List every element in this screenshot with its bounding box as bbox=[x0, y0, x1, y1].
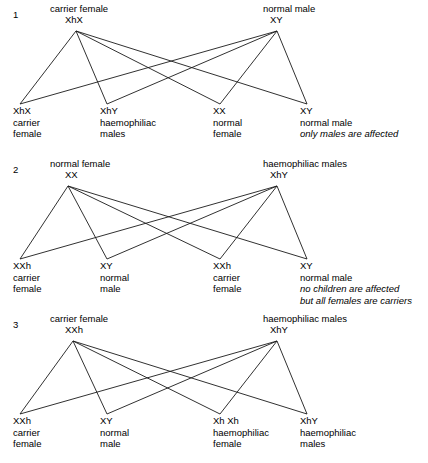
offspring-genotype: XXh bbox=[13, 260, 42, 272]
offspring-label-line1: normal male bbox=[300, 272, 412, 284]
offspring-note: only males are affected bbox=[300, 128, 398, 140]
parent-male-2: haemophiliac males XhY bbox=[263, 158, 347, 180]
parent-female-genotype-1: XhX bbox=[65, 14, 108, 25]
offspring-1-2: XhY haemophiliac males bbox=[100, 105, 156, 140]
cross-block-1: 1 carrier female XhX normal male XY XhX … bbox=[0, 0, 428, 153]
offspring-3-3: Xh Xh haemophiliac female bbox=[213, 415, 269, 450]
haemophilia-inheritance-diagram: 1 carrier female XhX normal male XY XhX … bbox=[0, 0, 428, 463]
offspring-label-line1: carrier bbox=[213, 272, 242, 284]
offspring-label-line2: males bbox=[300, 438, 356, 450]
offspring-genotype: Xh Xh bbox=[213, 415, 269, 427]
offspring-genotype: XhY bbox=[100, 105, 156, 117]
offspring-2-4: XY normal male no children are affected … bbox=[300, 260, 412, 306]
offspring-label-line1: haemophiliac bbox=[300, 427, 356, 439]
offspring-label-line1: haemophiliac bbox=[100, 117, 156, 129]
cross-block-2: 2 normal female XX haemophiliac males Xh… bbox=[0, 155, 428, 308]
offspring-3-1: XXh carrier female bbox=[13, 415, 42, 450]
parent-male-genotype-2: XhY bbox=[270, 169, 347, 180]
offspring-1-4: XY normal male only males are affected bbox=[300, 105, 398, 140]
parent-female-genotype-2: XX bbox=[65, 169, 110, 180]
offspring-label-line2: female bbox=[213, 128, 242, 140]
parent-male-genotype-1: XY bbox=[270, 14, 315, 25]
offspring-label-line1: carrier bbox=[13, 272, 42, 284]
offspring-label-line1: normal bbox=[100, 272, 129, 284]
parent-male-1: normal male XY bbox=[263, 3, 315, 25]
parent-female-description-1: carrier female bbox=[50, 3, 108, 14]
parent-female-genotype-3: XXh bbox=[65, 324, 108, 335]
parent-male-description-3: haemophiliac males bbox=[263, 313, 347, 324]
offspring-genotype: XXh bbox=[13, 415, 42, 427]
offspring-note: no children are affected bbox=[300, 283, 412, 295]
offspring-label-line1: carrier bbox=[13, 427, 42, 439]
offspring-genotype: XXh bbox=[213, 260, 242, 272]
offspring-genotype: XhX bbox=[13, 105, 42, 117]
offspring-label-line2: female bbox=[13, 128, 42, 140]
offspring-genotype: XY bbox=[300, 105, 398, 117]
cross-index-3: 3 bbox=[13, 319, 18, 330]
offspring-1-1: XhX carrier female bbox=[13, 105, 42, 140]
parent-male-description-1: normal male bbox=[263, 3, 315, 14]
offspring-genotype: XhY bbox=[300, 415, 356, 427]
parent-female-description-3: carrier female bbox=[50, 313, 108, 324]
offspring-3-2: XY normal male bbox=[100, 415, 129, 450]
offspring-label-line2: male bbox=[100, 283, 129, 295]
offspring-label-line2: female bbox=[13, 438, 42, 450]
offspring-label-line1: normal male bbox=[300, 117, 398, 129]
offspring-2-3: XXh carrier female bbox=[213, 260, 242, 295]
cross-index-1: 1 bbox=[13, 9, 18, 20]
offspring-label-line2: male bbox=[100, 438, 129, 450]
parent-male-genotype-3: XhY bbox=[270, 324, 347, 335]
offspring-label-line1: normal bbox=[213, 117, 242, 129]
offspring-2-2: XY normal male bbox=[100, 260, 129, 295]
offspring-3-4: XhY haemophiliac males bbox=[300, 415, 356, 450]
offspring-genotype: XY bbox=[100, 415, 129, 427]
offspring-label-line2: female bbox=[213, 438, 269, 450]
parent-female-1: carrier female XhX bbox=[50, 3, 108, 25]
parent-male-description-2: haemophiliac males bbox=[263, 158, 347, 169]
offspring-2-1: XXh carrier female bbox=[13, 260, 42, 295]
offspring-genotype: XY bbox=[300, 260, 412, 272]
offspring-label-line1: normal bbox=[100, 427, 129, 439]
offspring-label-line2: female bbox=[213, 283, 242, 295]
cross-index-2: 2 bbox=[13, 164, 18, 175]
offspring-label-line1: carrier bbox=[13, 117, 42, 129]
offspring-label-line2: female bbox=[13, 283, 42, 295]
parent-female-description-2: normal female bbox=[50, 158, 110, 169]
offspring-genotype: XY bbox=[100, 260, 129, 272]
offspring-1-3: XX normal female bbox=[213, 105, 242, 140]
parent-female-2: normal female XX bbox=[50, 158, 110, 180]
offspring-label-line2: males bbox=[100, 128, 156, 140]
offspring-genotype: XX bbox=[213, 105, 242, 117]
offspring-label-line1: haemophiliac bbox=[213, 427, 269, 439]
cross-block-3: 3 carrier female XXh haemophiliac males … bbox=[0, 310, 428, 463]
parent-male-3: haemophiliac males XhY bbox=[263, 313, 347, 335]
parent-female-3: carrier female XXh bbox=[50, 313, 108, 335]
offspring-note-second-line: but all females are carriers bbox=[300, 295, 412, 307]
